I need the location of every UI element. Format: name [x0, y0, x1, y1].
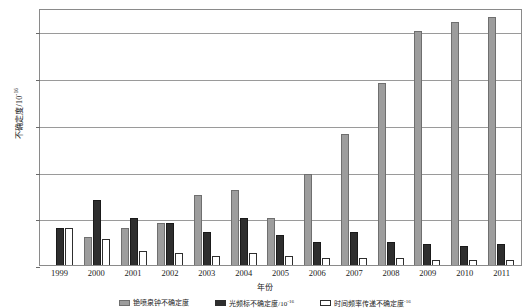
legend-label: 铯喷泉钟不确定度: [133, 299, 189, 307]
bar: [341, 134, 349, 265]
legend-swatch: [320, 300, 331, 306]
x-axis-tick-label: 2000: [78, 267, 115, 281]
legend-item: 光频标不确定度/10-16: [215, 298, 294, 308]
x-axis-tick-label: 2001: [115, 267, 152, 281]
bar-group: [409, 10, 446, 265]
legend-label-exponent: -16: [287, 299, 294, 304]
legend-swatch: [215, 300, 226, 306]
y-axis-title-text: 不确定度/10: [15, 96, 24, 140]
bar-group: [225, 10, 262, 265]
bar: [130, 218, 138, 265]
legend-label: 时间频率传递不确定度-16: [334, 298, 411, 308]
bar-group: [336, 10, 373, 265]
x-axis-tick-label: 2008: [373, 267, 410, 281]
legend-label-exponent: -16: [404, 299, 411, 304]
bar: [396, 258, 404, 265]
bar: [240, 218, 248, 265]
bar: [249, 253, 257, 265]
bar-group: [372, 10, 409, 265]
x-axis-tick-label: 2004: [225, 267, 262, 281]
bar: [460, 246, 468, 265]
bar: [304, 174, 312, 265]
bar-group: [446, 10, 483, 265]
bar: [139, 251, 147, 265]
bar-group: [189, 10, 226, 265]
chart-legend: 铯喷泉钟不确定度光频标不确定度/10-16时间频率传递不确定度-16: [0, 298, 530, 308]
bar: [423, 244, 431, 265]
bar: [469, 260, 477, 265]
bar: [497, 244, 505, 265]
bar-group: [115, 10, 152, 265]
bar: [121, 228, 129, 265]
bar: [350, 232, 358, 265]
bar: [203, 232, 211, 265]
bar: [84, 237, 92, 265]
legend-label: 光频标不确定度/10-16: [229, 298, 294, 308]
bar-group: [79, 10, 116, 265]
bar-group: [42, 10, 79, 265]
x-axis-tick-label: 2002: [152, 267, 189, 281]
bar: [212, 256, 220, 265]
bar: [267, 218, 275, 265]
bar: [231, 190, 239, 265]
x-axis-tick-label: 2003: [188, 267, 225, 281]
bar: [488, 17, 496, 265]
chart-figure: 不确定度/10-16 01020304050 19992000200120022…: [0, 0, 530, 308]
bar: [378, 83, 386, 265]
bar: [276, 235, 284, 265]
x-axis-tick-label: 2007: [336, 267, 373, 281]
x-axis-tick-labels: 1999200020012002200320042005200620072008…: [39, 267, 522, 281]
bar-groups: [40, 10, 521, 265]
x-axis-tick-label: 1999: [41, 267, 78, 281]
x-axis-tick-label: 2010: [446, 267, 483, 281]
x-axis-title: 年份: [0, 281, 530, 292]
bar: [359, 258, 367, 265]
bar: [322, 258, 330, 265]
x-axis-tick-label: 2009: [409, 267, 446, 281]
x-axis-tick-label: 2006: [299, 267, 336, 281]
bar: [175, 253, 183, 265]
legend-item: 铯喷泉钟不确定度: [119, 298, 189, 308]
x-axis-tick-label: 2011: [483, 267, 520, 281]
legend-item: 时间频率传递不确定度-16: [320, 298, 411, 308]
bar: [194, 195, 202, 265]
bar: [506, 260, 514, 265]
bar: [285, 256, 293, 265]
bar: [157, 223, 165, 265]
bar: [432, 260, 440, 265]
bar: [451, 22, 459, 265]
bar-group: [299, 10, 336, 265]
bar: [414, 31, 422, 265]
y-axis-title: 不确定度/10-16: [13, 54, 24, 174]
bar-group: [152, 10, 189, 265]
bar: [65, 228, 73, 265]
bar: [102, 239, 110, 265]
bar: [56, 228, 64, 265]
bar: [166, 223, 174, 265]
bar: [93, 200, 101, 265]
plot-area: [39, 9, 522, 266]
legend-swatch: [119, 300, 130, 306]
bar: [313, 242, 321, 265]
bar: [387, 242, 395, 265]
bar-group: [262, 10, 299, 265]
y-axis-title-exponent: -16: [13, 88, 19, 96]
bar-group: [482, 10, 519, 265]
x-axis-tick-label: 2005: [262, 267, 299, 281]
